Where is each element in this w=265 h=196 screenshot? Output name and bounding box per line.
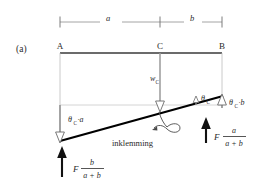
reaction-left-denominator: a + b bbox=[83, 171, 100, 180]
angle-label-subscript: C bbox=[206, 99, 210, 105]
angle-label-theta: θ bbox=[201, 94, 205, 103]
reaction-force-left bbox=[57, 146, 67, 177]
rotation-right-rest: ·b bbox=[239, 98, 245, 107]
rotation-right-label-group: θ C ·b bbox=[229, 98, 245, 109]
reaction-left-numerator: b bbox=[90, 158, 94, 167]
dimension-line-group: a b bbox=[60, 12, 222, 28]
clamp-label: inklemming bbox=[112, 138, 154, 148]
reaction-left-arrow-head bbox=[57, 146, 67, 158]
node-label-a: A bbox=[57, 41, 64, 51]
node-label-c: C bbox=[157, 41, 163, 51]
rotation-left-label-group: θ C ·a bbox=[68, 115, 84, 126]
angle-marker-arrow-head bbox=[193, 96, 199, 103]
angle-marker-theta-c: θ C bbox=[193, 94, 210, 105]
node-label-b: B bbox=[219, 41, 225, 51]
rotation-arrow-left bbox=[56, 105, 65, 143]
reaction-right-arrow-head bbox=[201, 117, 211, 129]
rotation-right-arrow-head bbox=[218, 94, 227, 105]
deflection-arrow-head bbox=[156, 101, 165, 112]
reaction-right-symbol: F bbox=[213, 132, 220, 142]
rotation-left-rest: ·a bbox=[78, 115, 84, 124]
reaction-force-right bbox=[201, 117, 211, 143]
rotation-left-arrow-head bbox=[56, 132, 65, 143]
dimension-a-label-mask bbox=[100, 12, 122, 24]
beam-deflection-figure: (a) a b A C B w C θ C ·a bbox=[0, 0, 265, 196]
rotation-left-theta: θ bbox=[68, 115, 72, 124]
panel-label: (a) bbox=[16, 44, 27, 55]
reaction-right-denominator: a + b bbox=[225, 139, 242, 148]
reaction-right-label-group: F a a + b bbox=[213, 126, 246, 148]
dimension-label-b: b bbox=[190, 13, 194, 23]
deflection-label-subscript: C bbox=[156, 79, 160, 85]
dimension-label-a: a bbox=[106, 13, 110, 23]
reaction-left-label-group: F b a + b bbox=[72, 158, 104, 180]
deflection-label-group: w C bbox=[150, 74, 160, 85]
reaction-left-symbol: F bbox=[72, 164, 79, 174]
rotation-right-theta: θ bbox=[229, 98, 233, 107]
clamp-leader-loop bbox=[154, 124, 180, 133]
reaction-right-numerator: a bbox=[232, 126, 236, 135]
